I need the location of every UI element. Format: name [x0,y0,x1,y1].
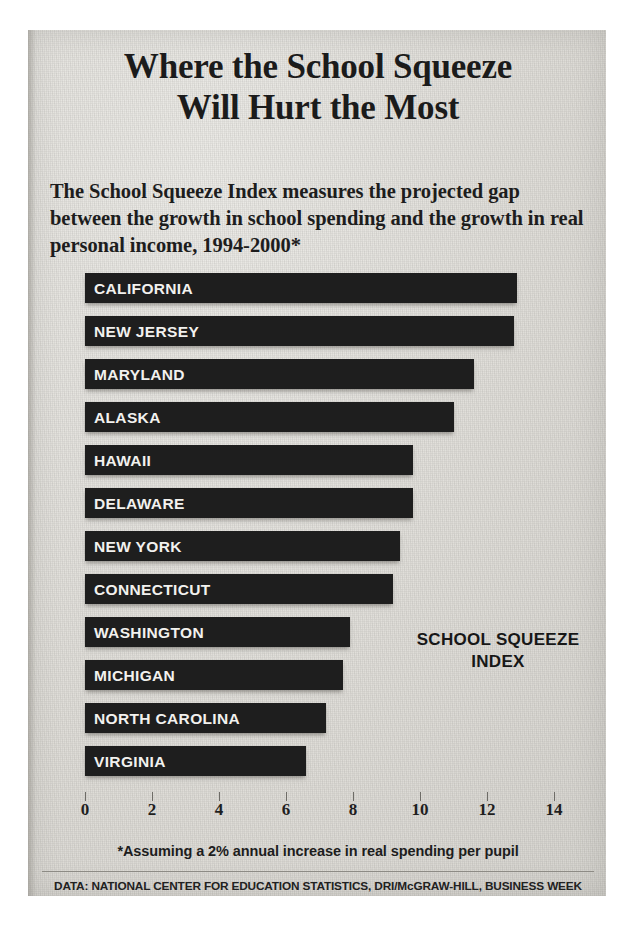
bar-chart-plot-area: CALIFORNIANEW JERSEYMARYLANDALASKAHAWAII… [0,0,633,945]
bar-row: MARYLAND [85,359,474,389]
bar-row: HAWAII [85,445,413,475]
bar-row: CALIFORNIA [85,273,517,303]
bar-row: CONNECTICUT [85,574,393,604]
x-axis-tick-label: 8 [333,800,373,820]
bar-row: NEW JERSEY [85,316,514,346]
x-axis-tick-label: 14 [534,800,574,820]
bar-row: NORTH CAROLINA [85,703,326,733]
bar-row: ALASKA [85,402,454,432]
bar-category-label: ALASKA [94,402,161,432]
x-axis-tick-label: 2 [132,800,172,820]
bar-row: NEW YORK [85,531,400,561]
bar-category-label: HAWAII [94,445,151,475]
bar-row: DELAWARE [85,488,413,518]
bar-category-label: CONNECTICUT [94,574,211,604]
bar-category-label: NEW YORK [94,531,182,561]
index-axis-label-line-1: SCHOOL SQUEEZE [408,629,588,651]
x-axis-tick-label: 4 [199,800,239,820]
x-axis-tick-label: 6 [266,800,306,820]
bar-category-label: NEW JERSEY [94,316,199,346]
chart-footnote: *Assuming a 2% annual increase in real s… [48,843,588,859]
bar-category-label: CALIFORNIA [94,273,193,303]
index-axis-label: SCHOOL SQUEEZE INDEX [408,629,588,673]
bar-category-label: VIRGINIA [94,746,166,776]
x-axis-tick-label: 12 [467,800,507,820]
bar-category-label: WASHINGTON [94,617,204,647]
chart-source: DATA: NATIONAL CENTER FOR EDUCATION STAT… [48,879,588,893]
bar-category-label: NORTH CAROLINA [94,703,240,733]
bar-row: WASHINGTON [85,617,350,647]
bar-row: VIRGINIA [85,746,306,776]
x-axis-tick-label: 10 [400,800,440,820]
bar-category-label: MARYLAND [94,359,185,389]
footer-divider [42,871,594,872]
bar-category-label: DELAWARE [94,488,185,518]
bar-row: MICHIGAN [85,660,343,690]
x-axis-tick-label: 0 [65,800,105,820]
bar-category-label: MICHIGAN [94,660,175,690]
index-axis-label-line-2: INDEX [408,651,588,673]
chart-figure: Where the School Squeeze Will Hurt the M… [0,0,633,945]
